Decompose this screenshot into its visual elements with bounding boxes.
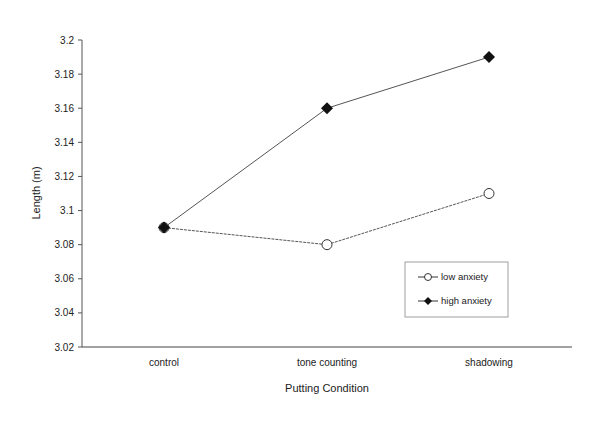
- x-tick-label: control: [149, 357, 179, 368]
- y-tick-label: 3.12: [55, 171, 75, 182]
- y-tick-label: 3.04: [55, 307, 75, 318]
- x-tick-label: shadowing: [465, 357, 513, 368]
- y-tick-label: 3.1: [60, 205, 74, 216]
- y-tick-label: 3.16: [55, 103, 75, 114]
- y-tick-label: 3.06: [55, 273, 75, 284]
- y-tick-label: 3.02: [55, 342, 75, 353]
- x-axis-title: Putting Condition: [285, 382, 369, 394]
- series-line: [164, 194, 489, 245]
- y-tick-label: 3.08: [55, 239, 75, 250]
- filled-diamond-marker: [321, 102, 333, 114]
- filled-diamond-marker: [158, 222, 170, 234]
- x-ticks: controltone countingshadowing: [149, 357, 513, 368]
- y-tick-label: 3.14: [55, 137, 75, 148]
- y-axis-title: Length (m): [30, 166, 42, 219]
- series-group: [158, 51, 495, 250]
- y-ticks: 3.023.043.063.083.13.123.143.163.183.2: [55, 35, 82, 353]
- filled-diamond-marker: [483, 51, 495, 63]
- open-circle-icon: [425, 274, 432, 281]
- series-line: [164, 57, 489, 228]
- open-circle-marker: [322, 240, 332, 250]
- line-chart: 3.023.043.063.083.13.123.143.163.183.2 c…: [0, 0, 605, 421]
- legend-label: low anxiety: [441, 271, 488, 282]
- legend: low anxiety high anxiety: [405, 262, 508, 317]
- legend-label: high anxiety: [441, 295, 492, 306]
- series-low-anxiety: [159, 189, 494, 250]
- open-circle-marker: [484, 189, 494, 199]
- x-tick-label: tone counting: [297, 357, 357, 368]
- series-high-anxiety: [158, 51, 495, 234]
- y-tick-label: 3.2: [60, 35, 74, 46]
- y-tick-label: 3.18: [55, 69, 75, 80]
